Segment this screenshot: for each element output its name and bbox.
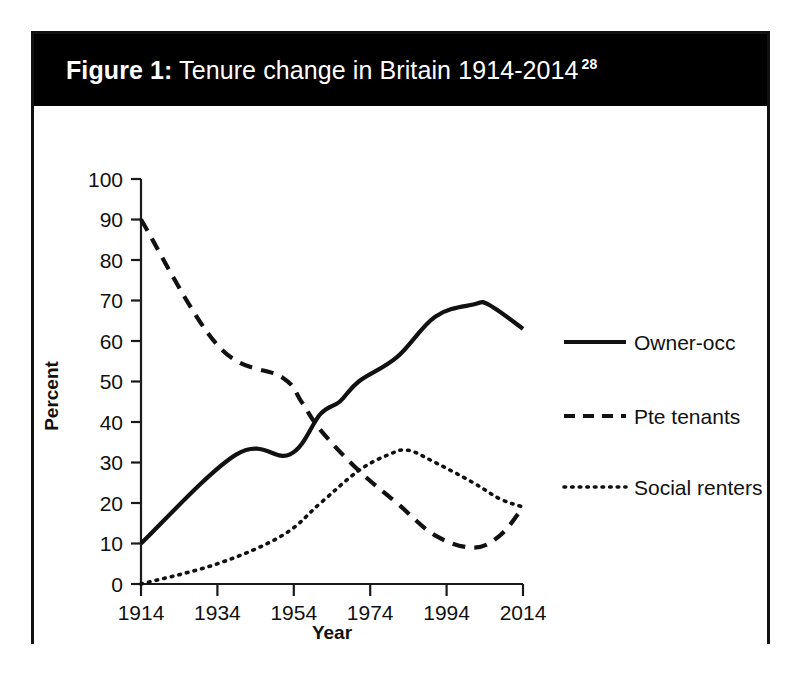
series-line-dotted: [141, 450, 523, 584]
chart-series-group: [141, 220, 523, 585]
series-line-solid: [141, 302, 523, 543]
legend-label-dotted: Social renters: [634, 476, 762, 499]
y-axis-ticks: [131, 179, 141, 584]
x-axis-tick-labels: 191419341954197419942014: [118, 601, 547, 624]
legend-item-solid: Owner-occ: [564, 331, 736, 354]
figure-root: Figure 1: Tenure change in Britain 1914-…: [0, 0, 803, 689]
y-tick-label: 20: [100, 492, 123, 515]
chart-legend: Owner-occPte tenantsSocial renters: [564, 331, 762, 499]
figure-footnote-marker: 28: [582, 56, 598, 72]
figure-number-label: Figure 1:: [66, 56, 172, 84]
x-tick-label: 1954: [270, 601, 317, 624]
page-title: Figure 1: Tenure change in Britain 1914-…: [66, 56, 597, 85]
series-line-dashed: [141, 220, 523, 548]
y-tick-label: 100: [88, 168, 123, 191]
y-tick-label: 30: [100, 451, 123, 474]
figure-title-label: Tenure change in Britain 1914-2014: [172, 56, 578, 84]
legend-label-dashed: Pte tenants: [634, 405, 740, 428]
y-tick-label: 10: [100, 532, 123, 555]
y-tick-label: 90: [100, 208, 123, 231]
legend-label-solid: Owner-occ: [634, 331, 736, 354]
legend-item-dashed: Pte tenants: [564, 405, 740, 428]
y-tick-label: 40: [100, 411, 123, 434]
x-axis: 191419341954197419942014 Year: [118, 584, 547, 643]
y-tick-label: 70: [100, 289, 123, 312]
x-tick-label: 1994: [423, 601, 470, 624]
tenure-change-line-chart: 0102030405060708090100 Percent 191419341…: [34, 106, 767, 644]
y-tick-label: 50: [100, 370, 123, 393]
x-axis-ticks: [141, 584, 523, 596]
x-axis-title: Year: [312, 622, 353, 643]
y-tick-label: 80: [100, 249, 123, 272]
figure-frame: Figure 1: Tenure change in Britain 1914-…: [31, 31, 770, 644]
y-tick-label: 60: [100, 330, 123, 353]
y-axis: 0102030405060708090100 Percent: [41, 168, 141, 596]
x-tick-label: 2014: [500, 601, 547, 624]
chart-plot-area: 0102030405060708090100 Percent 191419341…: [34, 106, 767, 644]
y-axis-title: Percent: [41, 360, 62, 430]
figure-title-bar: Figure 1: Tenure change in Britain 1914-…: [34, 34, 767, 106]
y-tick-label: 0: [111, 573, 123, 596]
x-tick-label: 1914: [118, 601, 165, 624]
y-axis-tick-labels: 0102030405060708090100: [88, 168, 123, 596]
x-tick-label: 1934: [194, 601, 241, 624]
legend-item-dotted: Social renters: [564, 476, 762, 499]
x-tick-label: 1974: [347, 601, 394, 624]
